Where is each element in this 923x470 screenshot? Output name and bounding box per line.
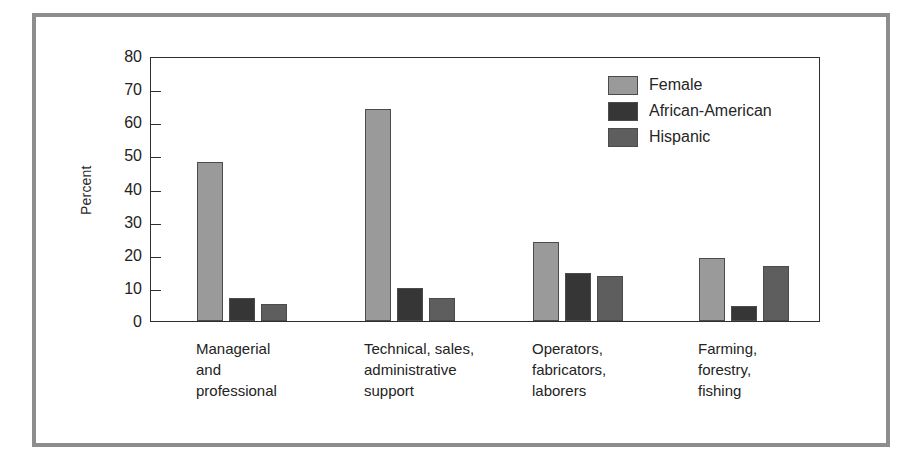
- chart-legend: FemaleAfrican-AmericanHispanic: [608, 72, 808, 150]
- y-tick-mark: [151, 257, 161, 258]
- x-category-label-line: laborers: [532, 380, 606, 401]
- x-category-label-line: Farming,: [698, 338, 757, 359]
- y-tick-label: 20: [102, 248, 142, 264]
- bar-group: [365, 58, 461, 321]
- x-category-label-line: administrative: [364, 359, 474, 380]
- legend-item[interactable]: Female: [608, 72, 808, 98]
- y-tick-label: 10: [102, 281, 142, 297]
- bar[interactable]: [261, 304, 287, 321]
- x-category-label-line: support: [364, 380, 474, 401]
- bar[interactable]: [429, 298, 455, 321]
- y-tick-label: 50: [102, 148, 142, 164]
- y-tick-mark: [151, 191, 161, 192]
- x-category-label-line: Managerial: [196, 338, 277, 359]
- x-category-label-line: Technical, sales,: [364, 338, 474, 359]
- bar[interactable]: [229, 298, 255, 321]
- y-tick-mark: [151, 290, 161, 291]
- bar[interactable]: [597, 276, 623, 321]
- x-category-label-line: professional: [196, 380, 277, 401]
- legend-swatch-icon: [608, 76, 638, 95]
- bar[interactable]: [533, 242, 559, 322]
- y-tick-label: 60: [102, 115, 142, 131]
- x-category-label: Operators,fabricators,laborers: [532, 338, 606, 401]
- y-tick-mark: [151, 124, 161, 125]
- x-category-label-line: Operators,: [532, 338, 606, 359]
- y-axis-title: Percent: [78, 125, 100, 255]
- y-tick-label: 30: [102, 215, 142, 231]
- y-tick-label: 40: [102, 182, 142, 198]
- bar[interactable]: [197, 162, 223, 321]
- y-tick-label: 0: [102, 314, 142, 330]
- x-axis-category-labels: ManagerialandprofessionalTechnical, sale…: [150, 338, 820, 418]
- y-tick-mark: [151, 157, 161, 158]
- bar-chart: Percent 01020304050607080 FemaleAfrican-…: [0, 0, 923, 470]
- legend-label: Female: [649, 76, 702, 94]
- x-category-label-line: forestry,: [698, 359, 757, 380]
- bar[interactable]: [397, 288, 423, 321]
- bar[interactable]: [565, 273, 591, 321]
- x-category-label-line: fabricators,: [532, 359, 606, 380]
- legend-item[interactable]: African-American: [608, 98, 808, 124]
- x-category-label-line: and: [196, 359, 277, 380]
- bar-group: [197, 58, 293, 321]
- bar[interactable]: [763, 266, 789, 321]
- y-tick-label: 80: [102, 49, 142, 65]
- bar[interactable]: [731, 306, 757, 321]
- legend-swatch-icon: [608, 128, 638, 147]
- y-axis-tick-labels: 01020304050607080: [98, 57, 142, 322]
- legend-item[interactable]: Hispanic: [608, 124, 808, 150]
- x-category-label: Managerialandprofessional: [196, 338, 277, 401]
- y-tick-mark: [151, 91, 161, 92]
- legend-label: African-American: [649, 102, 772, 120]
- legend-label: Hispanic: [649, 128, 710, 146]
- y-tick-label: 70: [102, 82, 142, 98]
- y-tick-mark: [151, 224, 161, 225]
- bar[interactable]: [699, 258, 725, 321]
- legend-swatch-icon: [608, 102, 638, 121]
- x-category-label: Technical, sales,administrativesupport: [364, 338, 474, 401]
- x-category-label-line: fishing: [698, 380, 757, 401]
- x-category-label: Farming,forestry,fishing: [698, 338, 757, 401]
- bar[interactable]: [365, 109, 391, 321]
